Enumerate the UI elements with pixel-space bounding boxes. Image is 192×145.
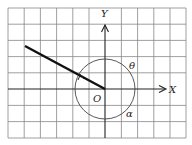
origin-label: O bbox=[93, 93, 101, 104]
terminal-ray bbox=[25, 46, 105, 89]
theta-label: θ bbox=[129, 60, 135, 71]
grid bbox=[8, 8, 186, 138]
axes bbox=[8, 25, 166, 138]
alpha-label: α bbox=[126, 108, 133, 119]
y-axis-label: Y bbox=[101, 8, 109, 19]
x-axis-label: X bbox=[168, 84, 177, 95]
diagram-svg: Y X O θ α bbox=[0, 0, 192, 145]
angle-diagram: Y X O θ α bbox=[0, 0, 192, 145]
